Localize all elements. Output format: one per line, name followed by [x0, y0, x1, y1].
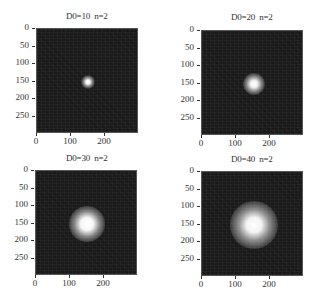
subplot-title: D0=20 n=2: [231, 12, 273, 22]
y-tick: 200: [4, 234, 28, 244]
image-frame: [35, 170, 137, 275]
y-tick: 100: [4, 199, 28, 209]
y-tick: 100: [170, 59, 194, 69]
image-frame: [36, 28, 138, 133]
image-frame: [201, 30, 303, 135]
y-tick: 150: [170, 77, 194, 87]
x-tick: 100: [54, 278, 84, 288]
subplot-d0-40: D0=40 n=2 0 50 100 150 200 250 0 100 200: [165, 142, 319, 304]
image-frame: [201, 171, 303, 276]
y-tick: 200: [5, 92, 29, 102]
bright-spot: [81, 75, 95, 89]
y-tick: 100: [5, 57, 29, 67]
y-tick: 150: [170, 218, 194, 228]
y-tick: 50: [5, 40, 29, 50]
y-tick: 150: [4, 217, 28, 227]
bright-spot: [69, 206, 105, 242]
subplot-d0-20: D0=20 n=2 0 50 100 150 200 250 0 100 200: [165, 0, 319, 152]
subplot-title: D0=30 n=2: [66, 153, 108, 163]
bright-spot: [243, 73, 265, 95]
y-tick: 250: [170, 112, 194, 122]
subplot-d0-10: D0=10 n=2 0 50 100 150 200 250 0 100 200: [0, 0, 160, 152]
y-tick: 50: [170, 183, 194, 193]
y-tick: 50: [4, 182, 28, 192]
y-tick: 0: [4, 164, 28, 174]
x-tick: 100: [220, 279, 250, 289]
y-tick: 250: [4, 252, 28, 262]
bright-spot: [230, 201, 278, 249]
x-tick: 200: [254, 279, 284, 289]
subplot-title: D0=40 n=2: [231, 154, 273, 164]
x-tick: 0: [186, 279, 216, 289]
x-tick: 0: [20, 278, 50, 288]
y-tick: 200: [170, 94, 194, 104]
y-tick: 0: [5, 22, 29, 32]
y-tick: 100: [170, 200, 194, 210]
y-tick: 200: [170, 235, 194, 245]
y-tick: 0: [170, 165, 194, 175]
subplot-d0-30: D0=30 n=2 0 50 100 150 200 250 0 100 200: [0, 142, 160, 304]
y-tick: 0: [170, 24, 194, 34]
subplot-title: D0=10 n=2: [66, 11, 108, 21]
y-tick: 250: [5, 110, 29, 120]
x-tick: 200: [88, 278, 118, 288]
y-tick: 50: [170, 42, 194, 52]
y-tick: 250: [170, 253, 194, 263]
y-tick: 150: [5, 75, 29, 85]
